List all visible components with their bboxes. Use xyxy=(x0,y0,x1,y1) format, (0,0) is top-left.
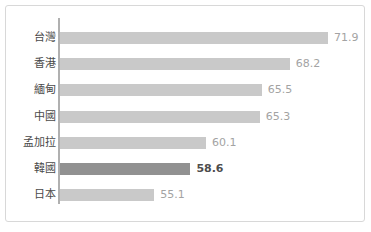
bar-highlighted xyxy=(60,163,190,175)
bar-value-label: 68.2 xyxy=(296,56,321,72)
bar-value-label: 71.9 xyxy=(334,30,359,46)
category-label: 台灣 xyxy=(0,30,56,46)
category-label: 孟加拉 xyxy=(0,135,56,151)
plot-area: 台灣71.9香港68.2緬甸65.5中國65.3孟加拉60.1韓國58.6日本5… xyxy=(6,6,364,221)
category-label: 韓國 xyxy=(0,161,56,177)
bar-value-label: 65.3 xyxy=(266,109,291,125)
category-label: 緬甸 xyxy=(0,82,56,98)
category-label: 日本 xyxy=(0,187,56,203)
category-label: 中國 xyxy=(0,109,56,125)
bar-value-label: 60.1 xyxy=(212,135,237,151)
chart-frame: 台灣71.9香港68.2緬甸65.5中國65.3孟加拉60.1韓國58.6日本5… xyxy=(5,5,365,222)
bar xyxy=(60,84,262,96)
bar-value-label: 58.6 xyxy=(196,161,223,177)
bar xyxy=(60,32,328,44)
bar xyxy=(60,137,206,149)
bar-row: 韓國58.6 xyxy=(6,163,364,175)
bar-row: 中國65.3 xyxy=(6,111,364,123)
bar xyxy=(60,58,290,70)
bar-value-label: 65.5 xyxy=(268,82,293,98)
bar xyxy=(60,189,154,201)
category-label: 香港 xyxy=(0,56,56,72)
bar-row: 日本55.1 xyxy=(6,189,364,201)
bar-row: 台灣71.9 xyxy=(6,32,364,44)
bar xyxy=(60,111,260,123)
bar-value-label: 55.1 xyxy=(160,187,185,203)
bar-row: 孟加拉60.1 xyxy=(6,137,364,149)
bar-row: 香港68.2 xyxy=(6,58,364,70)
chart-canvas: 台灣71.9香港68.2緬甸65.5中國65.3孟加拉60.1韓國58.6日本5… xyxy=(0,0,371,232)
bar-row: 緬甸65.5 xyxy=(6,84,364,96)
